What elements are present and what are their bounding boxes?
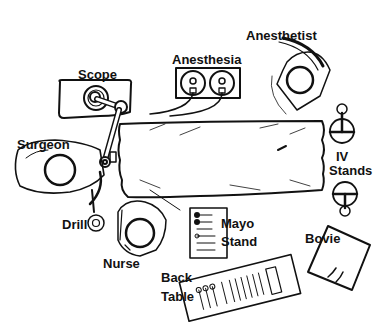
label-nurse: Nurse: [103, 257, 140, 271]
label-drill: Drill: [62, 218, 87, 232]
nurse-figure-icon: [118, 190, 180, 256]
label-mayo-line1: Mayo: [221, 217, 254, 231]
iv-stand-bottom-icon: [333, 182, 357, 216]
label-back-line1: Back: [161, 271, 192, 285]
label-iv-line2: Stands: [329, 164, 372, 178]
iv-stand-top-icon: [330, 104, 354, 143]
operating-table-icon: [119, 121, 325, 197]
label-bovie: Bovie: [305, 232, 340, 246]
label-scope: Scope: [78, 68, 117, 82]
back-table-icon: [179, 255, 300, 322]
label-anesthesia: Anesthesia: [172, 53, 241, 67]
label-back-line2: Table: [161, 290, 194, 304]
label-surgeon: Surgeon: [17, 138, 70, 152]
operating-room-diagram: Scope Anesthesia Anesthetist Surgeon IV …: [0, 0, 390, 330]
label-mayo-line2: Stand: [221, 235, 257, 249]
anesthesia-machine-icon: [150, 68, 240, 116]
label-anesthetist: Anesthetist: [246, 29, 317, 43]
anesthetist-figure-icon: [271, 38, 330, 114]
label-iv-line1: IV: [336, 150, 348, 164]
